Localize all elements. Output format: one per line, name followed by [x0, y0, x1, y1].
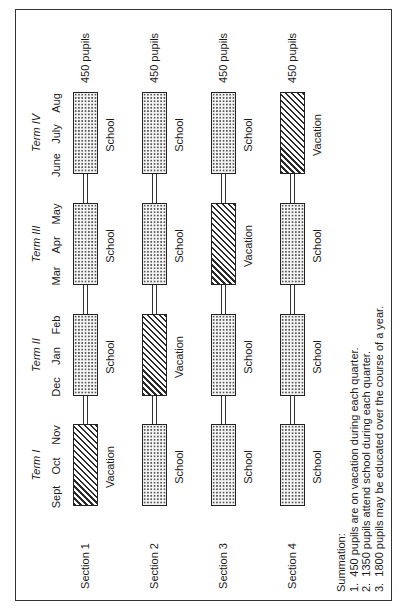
section-3-pupils: 450 pupils: [217, 23, 229, 93]
bar-label: School: [104, 105, 116, 165]
bar-label: Vacation: [242, 216, 254, 276]
bar-label: Vacation: [173, 327, 185, 387]
section-2-pupils: 450 pupils: [148, 23, 160, 93]
bar-label: School: [173, 437, 185, 497]
connector: [83, 174, 88, 203]
connector: [83, 396, 88, 424]
section-1-term-3-school-bar: [73, 203, 98, 285]
section-1-term-1-vacation-bar: [73, 424, 98, 506]
section-2-label: Section 2: [148, 531, 160, 601]
connector: [221, 396, 226, 424]
section-3-term-1-school-bar: [211, 424, 236, 506]
connector: [152, 285, 157, 314]
section-3-term-4-school-bar: [211, 92, 236, 174]
bar-label: School: [242, 327, 254, 387]
summary-item-1: 1. 450 pupils are on vacation during eac…: [348, 306, 361, 592]
section-3-label: Section 3: [217, 531, 229, 601]
month-label: Aug: [50, 83, 62, 123]
section-4-term-1-school-bar: [280, 424, 305, 506]
bar-label: School: [104, 216, 116, 276]
section-1-term-2-school-bar: [73, 314, 98, 396]
bar-label: School: [242, 437, 254, 497]
summary-item-3: 3. 1800 pupils may be educated over the …: [373, 306, 386, 592]
month-label: May: [50, 194, 62, 234]
bar-label: School: [173, 105, 185, 165]
section-1-label: Section 1: [79, 531, 91, 601]
bar-label: School: [311, 216, 323, 276]
connector: [221, 174, 226, 203]
section-2-term-1-school-bar: [142, 424, 167, 506]
term-label-2: Term II: [30, 325, 42, 385]
connector: [152, 174, 157, 203]
bar-label: Vacation: [104, 437, 116, 497]
connector: [290, 174, 295, 203]
section-4-term-4-vacation-bar: [280, 92, 305, 174]
summary-block: Summation: 1. 450 pupils are on vacation…: [335, 306, 385, 592]
term-label-4: Term IV: [30, 103, 42, 163]
section-2-term-4-school-bar: [142, 92, 167, 174]
summary-item-2: 2. 1350 pupils attend school during each…: [360, 306, 373, 592]
section-1-term-4-school-bar: [73, 92, 98, 174]
section-4-term-2-school-bar: [280, 314, 305, 396]
bar-label: School: [311, 437, 323, 497]
bar-label: School: [173, 216, 185, 276]
connector: [83, 285, 88, 314]
summary-title: Summation:: [335, 306, 348, 592]
month-label: Feb: [50, 305, 62, 345]
section-4-pupils: 450 pupils: [286, 23, 298, 93]
connector: [221, 285, 226, 314]
bar-label: School: [311, 327, 323, 387]
connector: [290, 396, 295, 424]
term-label-1: Term I: [30, 435, 42, 495]
month-label: Nov: [50, 415, 62, 455]
section-2-term-2-vacation-bar: [142, 314, 167, 396]
connector: [290, 285, 295, 314]
section-4-label: Section 4: [286, 531, 298, 601]
term-label-3: Term III: [30, 214, 42, 274]
section-3-term-3-vacation-bar: [211, 203, 236, 285]
section-1-pupils: 450 pupils: [79, 23, 91, 93]
section-2-term-3-school-bar: [142, 203, 167, 285]
bar-label: School: [104, 327, 116, 387]
section-3-term-2-school-bar: [211, 314, 236, 396]
bar-label: Vacation: [311, 105, 323, 165]
connector: [152, 396, 157, 424]
section-4-term-3-school-bar: [280, 203, 305, 285]
bar-label: School: [242, 105, 254, 165]
